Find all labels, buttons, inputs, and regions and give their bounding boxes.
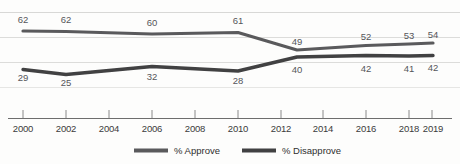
x-tick-label: 2008	[185, 123, 205, 134]
data-label: 29	[18, 72, 29, 83]
chart-canvas: 2000 2002 2004 2006 2008 2010 2012 2014 …	[0, 0, 460, 164]
x-tick-label: 2002	[56, 123, 76, 134]
data-label: 52	[361, 31, 372, 42]
x-tick-label: 2000	[13, 123, 33, 134]
x-axis-tick-labels: 2000 2002 2004 2006 2008 2010 2012 2014 …	[13, 123, 443, 134]
data-label: 41	[404, 63, 415, 74]
chart-legend: % Approve % Disapprove	[134, 145, 341, 156]
data-label: 53	[404, 30, 415, 41]
x-tick-label: 2018	[399, 123, 419, 134]
data-label: 25	[61, 77, 72, 88]
data-label: 42	[428, 62, 439, 73]
x-axis-ticks	[23, 110, 432, 118]
data-labels-disapprove: 29 25 32 28 40 42 41 42	[18, 62, 439, 88]
data-label: 60	[147, 17, 158, 28]
x-tick-label: 2014	[313, 123, 333, 134]
legend-label-approve: % Approve	[174, 145, 220, 156]
data-label: 40	[292, 64, 303, 75]
x-tick-label: 2016	[356, 123, 376, 134]
x-tick-label: 2004	[99, 123, 119, 134]
data-label: 62	[18, 14, 29, 25]
series-line-approve	[23, 31, 433, 50]
x-tick-label: 2006	[142, 123, 162, 134]
data-label: 54	[428, 29, 439, 40]
data-label: 32	[147, 71, 158, 82]
data-label: 61	[233, 15, 244, 26]
x-tick-label: 2019	[423, 123, 443, 134]
legend-label-disapprove: % Disapprove	[282, 145, 341, 156]
series-line-disapprove	[23, 56, 433, 75]
data-label: 49	[292, 36, 303, 47]
x-tick-label: 2012	[271, 123, 291, 134]
line-chart: 2000 2002 2004 2006 2008 2010 2012 2014 …	[0, 0, 460, 164]
x-tick-label: 2010	[228, 123, 248, 134]
data-label: 62	[61, 14, 72, 25]
data-label: 28	[233, 75, 244, 86]
data-label: 42	[361, 63, 372, 74]
